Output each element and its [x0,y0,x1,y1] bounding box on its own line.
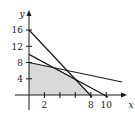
x-axis-arrow-icon [121,93,127,98]
y-axis-arrow-icon [27,10,32,16]
x-tick-label-10: 10 [100,100,112,110]
y-tick-label-16: 16 [12,25,24,35]
y-tick-label-4: 4 [17,74,23,84]
x-tick-label-8: 8 [88,100,94,110]
x-axis-label: x [128,100,133,110]
y-axis-label: y [18,9,25,19]
shaded-feasible-region [29,63,91,96]
feasible-region-chart: 2 8 10 x 4 8 12 16 y [0,0,135,116]
x-tick-label-2: 2 [42,100,48,110]
y-tick-label-8: 8 [17,58,23,68]
y-tick-label-12: 12 [12,42,23,52]
